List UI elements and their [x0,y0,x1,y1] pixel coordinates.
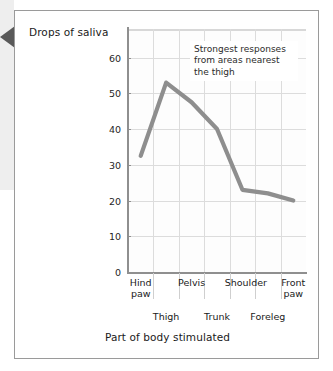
x-tick-label: Shoulder [225,277,260,288]
y-tick-label: 60 [95,52,121,63]
x-axis-title: Part of body stimulated [15,331,320,343]
x-tick-label: Foreleg [250,311,285,322]
y-tick-mark [127,165,131,166]
y-axis-title: Drops of saliva [29,26,108,38]
annotation-callout: Strongest responses from areas nearest t… [190,41,298,81]
x-tick-label: Front paw [276,277,311,299]
y-tick-label: 10 [95,231,121,242]
y-tick-label: 30 [95,159,121,170]
y-tick-mark [127,272,131,273]
x-tick-label: Thigh [148,311,183,322]
y-tick-mark [127,93,131,94]
annotation-line-3: the thigh [194,67,295,78]
y-tick-mark [127,236,131,237]
y-tick-label: 20 [95,195,121,206]
y-tick-label: 0 [95,267,121,278]
x-tick-label: Pelvis [174,277,209,288]
figure-page: Drops of saliva Strongest responses from… [0,0,333,371]
y-tick-mark [127,58,131,59]
y-tick-label: 40 [95,124,121,135]
x-tick-label: Trunk [199,311,234,322]
left-triangle-marker-icon [0,26,15,48]
annotation-line-2: from areas nearest [194,55,295,66]
x-tick-label: Hind paw [123,277,158,299]
y-tick-mark [127,201,131,202]
figure-panel: Drops of saliva Strongest responses from… [14,10,319,359]
annotation-line-1: Strongest responses [194,44,295,55]
y-tick-label: 50 [95,88,121,99]
y-tick-mark [127,129,131,130]
line-chart: Drops of saliva Strongest responses from… [15,11,320,360]
